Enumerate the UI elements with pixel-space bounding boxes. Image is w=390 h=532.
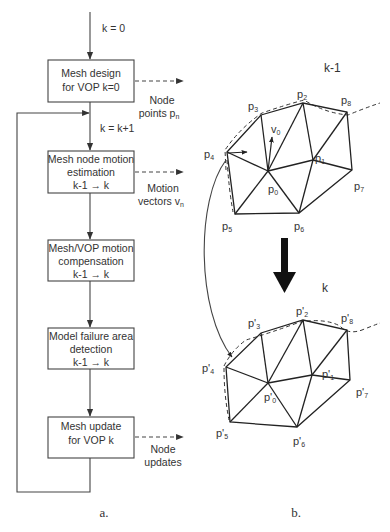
start-label: k = 0 bbox=[102, 22, 125, 34]
output-motion-vectors-line1: Motion bbox=[147, 182, 179, 194]
svg-text:Mesh update: Mesh update bbox=[61, 420, 122, 432]
svg-text:detection: detection bbox=[70, 343, 113, 355]
frame-curr-label: k bbox=[322, 281, 329, 295]
node-label-p4: p4 bbox=[204, 148, 214, 161]
node-label-p3: p3 bbox=[248, 100, 258, 113]
box-motion-estimation: Mesh node motion estimation k-1 → k bbox=[48, 151, 135, 193]
svg-text:for VOP k: for VOP k bbox=[68, 434, 114, 446]
svg-text:for VOP k=0: for VOP k=0 bbox=[62, 81, 119, 93]
frame-prev-label: k-1 bbox=[324, 61, 341, 75]
svg-text:k-1 → k: k-1 → k bbox=[73, 268, 110, 280]
node-label-p3-prime: p'3 bbox=[248, 317, 260, 330]
node-label-p7: p7 bbox=[354, 180, 364, 193]
figure-canvas: k = 0 Mesh design for VOP k=0 Node point… bbox=[0, 0, 390, 532]
output-node-points-line1: Node bbox=[149, 94, 174, 106]
node-label-p1-prime: p'1 bbox=[322, 368, 334, 381]
node-label-p1: p1 bbox=[315, 152, 325, 165]
node-label-p4-prime: p'4 bbox=[202, 362, 214, 375]
box-motion-compensation: Mesh/VOP motion compensation k-1 → k bbox=[48, 240, 134, 281]
svg-text:compensation: compensation bbox=[58, 255, 124, 267]
node-label-p7-prime: p'7 bbox=[356, 386, 368, 399]
node-label-p6: p6 bbox=[294, 220, 304, 233]
box-model-failure-detection: Model failure area detection k-1 → k bbox=[48, 328, 134, 369]
output-node-updates-line1: Node bbox=[150, 443, 175, 455]
mesh-diagram: k-1 v0 p1 p2 p3 p4 p0 p5 p6 p7 bbox=[202, 61, 380, 520]
mesh-prev bbox=[227, 103, 352, 214]
motion-vector-label: v0 bbox=[271, 123, 281, 136]
svg-text:Mesh design: Mesh design bbox=[61, 67, 121, 79]
flowchart: k = 0 Mesh design for VOP k=0 Node point… bbox=[17, 12, 184, 520]
node-label-p2-prime: p'2 bbox=[296, 305, 308, 318]
svg-text:estimation: estimation bbox=[67, 166, 115, 178]
output-motion-vectors-line2: vectors vn bbox=[138, 195, 184, 208]
node-label-p5-prime: p'5 bbox=[216, 427, 228, 440]
correspondence-arrow-p4 bbox=[204, 160, 232, 357]
caption-a: a. bbox=[99, 505, 108, 520]
object-contour-prev-left bbox=[227, 160, 233, 212]
motion-vector-p4 bbox=[228, 152, 247, 153]
node-label-p8: p8 bbox=[341, 94, 351, 107]
transition-arrow bbox=[273, 238, 296, 293]
node-label-p5: p5 bbox=[222, 220, 232, 233]
output-node-points-line2: points pn bbox=[139, 107, 180, 120]
output-node-updates-line2: updates bbox=[144, 456, 181, 468]
svg-text:Model failure area: Model failure area bbox=[49, 330, 133, 342]
node-label-p0: p0 bbox=[268, 183, 278, 196]
increment-label: k = k+1 bbox=[100, 122, 135, 134]
caption-b: b. bbox=[291, 505, 301, 520]
svg-text:k-1 → k: k-1 → k bbox=[73, 356, 110, 368]
svg-text:k-1 → k: k-1 → k bbox=[73, 179, 110, 191]
box-mesh-design: Mesh design for VOP k=0 bbox=[48, 60, 134, 102]
box-mesh-update: Mesh update for VOP k bbox=[48, 417, 134, 458]
svg-text:Mesh node motion: Mesh node motion bbox=[48, 153, 135, 165]
svg-text:Mesh/VOP motion: Mesh/VOP motion bbox=[48, 242, 133, 254]
node-label-p8-prime: p'8 bbox=[341, 312, 353, 325]
node-label-p6-prime: p'6 bbox=[293, 435, 305, 448]
node-label-p2: p2 bbox=[297, 88, 307, 101]
